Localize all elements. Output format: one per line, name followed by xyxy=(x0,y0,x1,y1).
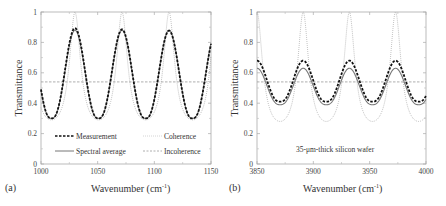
legend-measurement: Measurement xyxy=(76,132,118,141)
y-tick-label: 0 xyxy=(33,160,37,169)
y-axis-label-a: Transmittance xyxy=(13,59,24,116)
plot-frame-b xyxy=(257,12,426,164)
y-tick-label: 0.6 xyxy=(28,68,38,77)
y-tick-label: 1 xyxy=(249,8,253,17)
y-tick-label: 0.8 xyxy=(28,38,38,47)
y-tick-label: 0.6 xyxy=(244,68,254,77)
x-tick-label: 1050 xyxy=(90,167,105,176)
x-tick-label: 3950 xyxy=(362,167,377,176)
y-tick-label: 1 xyxy=(33,8,37,17)
y-tick-label: 0.8 xyxy=(244,38,254,47)
curves-b xyxy=(257,12,426,121)
legend-a: Measurement Coherence Spectral average I… xyxy=(55,132,201,156)
y-axis-label-b: Transmittance xyxy=(229,59,240,116)
legend-incoherence: Incoherence xyxy=(164,147,201,156)
y-tick-label: 0 xyxy=(249,160,253,169)
panel-a: 100010501100115000.20.40.60.81 Measureme… xyxy=(5,8,219,196)
y-tick-label: 0.4 xyxy=(28,99,38,108)
panel-b: 385039003950400000.20.40.60.81 35-μm-thi… xyxy=(229,8,434,196)
y-tick-label: 0.2 xyxy=(244,129,254,138)
legend-coherence: Coherence xyxy=(164,132,197,141)
panel-label-b: (b) xyxy=(229,182,241,194)
x-tick-label: 1100 xyxy=(147,167,162,176)
annotation-silicon-wafer: 35-μm-thick silicon wafer xyxy=(296,145,375,154)
series-measurement xyxy=(41,28,211,118)
y-tick-label: 0.2 xyxy=(28,129,38,138)
x-axis-label-b: Wavenumber (cm-1) xyxy=(303,183,382,195)
x-axis-label-a: Wavenumber (cm-1) xyxy=(91,183,170,195)
legend-spectral-average: Spectral average xyxy=(76,147,126,156)
y-tick-label: 0.4 xyxy=(244,99,254,108)
series-coherence xyxy=(257,12,426,121)
curves-a xyxy=(41,12,211,120)
x-tick-label: 3900 xyxy=(306,167,321,176)
x-tick-label: 4000 xyxy=(419,167,434,176)
x-tick-label: 1150 xyxy=(204,167,219,176)
panel-label-a: (a) xyxy=(5,182,16,194)
chart-figure: 100010501100115000.20.40.60.81 Measureme… xyxy=(0,0,446,206)
